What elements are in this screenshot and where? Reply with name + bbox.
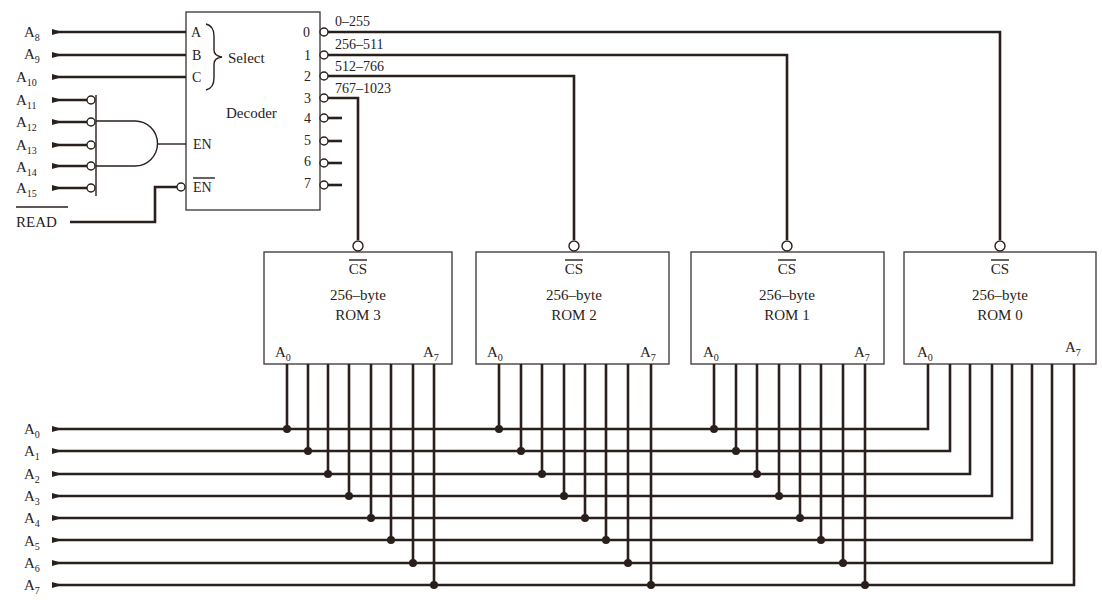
svg-text:A6: A6 — [24, 555, 40, 574]
memory-decoder-diagram: Decoder Select A B C EN EN A8 A9 A10 A11… — [0, 0, 1102, 600]
address-bus-labels: A0 A1 A2 A3 A4 A5 A6 A7 — [24, 421, 40, 596]
gate-input-a15: A15 — [16, 180, 95, 199]
svg-text:256–byte: 256–byte — [330, 287, 386, 303]
svg-text:CS: CS — [991, 261, 1009, 277]
svg-text:A0: A0 — [24, 421, 40, 440]
svg-text:6: 6 — [304, 154, 311, 169]
select-label: Select — [228, 50, 265, 66]
svg-text:7: 7 — [304, 176, 311, 191]
svg-text:A8: A8 — [24, 24, 40, 43]
cs-line-rom0 — [328, 32, 1000, 240]
svg-text:256–byte: 256–byte — [759, 287, 815, 303]
address-bus-wires — [52, 364, 1074, 589]
svg-text:256–byte: 256–byte — [972, 287, 1028, 303]
rom-0: CS 256–byte ROM 0 A0 A7 — [904, 241, 1096, 364]
svg-text:1: 1 — [304, 48, 311, 63]
svg-text:A13: A13 — [16, 137, 37, 156]
range-label-2: 512–766 — [335, 59, 384, 74]
input-a8: A8 — [24, 24, 186, 43]
svg-text:CS: CS — [565, 261, 583, 277]
svg-text:CS: CS — [778, 261, 796, 277]
range-label-3: 767–1023 — [335, 81, 391, 96]
svg-text:0: 0 — [303, 25, 310, 40]
svg-text:A4: A4 — [24, 510, 40, 529]
cs-line-rom3 — [328, 98, 358, 240]
svg-text:ROM 1: ROM 1 — [764, 307, 809, 323]
and-gate — [96, 121, 158, 166]
gate-input-a14: A14 — [16, 159, 95, 178]
svg-text:A2: A2 — [24, 466, 40, 485]
svg-text:A12: A12 — [16, 114, 37, 133]
svg-text:A3: A3 — [24, 488, 40, 507]
decoder-pin-c: C — [192, 70, 201, 85]
decoder-title: Decoder — [226, 105, 277, 121]
svg-text:4: 4 — [304, 111, 311, 126]
input-a10: A10 — [16, 69, 186, 88]
svg-text:ROM 0: ROM 0 — [977, 307, 1022, 323]
svg-text:A15: A15 — [16, 180, 37, 199]
svg-text:A10: A10 — [16, 69, 37, 88]
decoder-pin-en: EN — [193, 137, 212, 152]
svg-text:ROM 2: ROM 2 — [551, 307, 596, 323]
svg-text:A11: A11 — [16, 92, 36, 111]
rom-1: CS 256–byte ROM 1 A0 A7 — [691, 241, 884, 364]
svg-text:A9: A9 — [24, 46, 40, 65]
svg-text:ROM 3: ROM 3 — [335, 307, 380, 323]
svg-text:A7: A7 — [24, 577, 40, 596]
svg-text:5: 5 — [304, 133, 311, 148]
svg-text:A5: A5 — [24, 533, 40, 552]
read-signal: READ — [16, 183, 185, 230]
gate-input-a13: A13 — [16, 137, 95, 156]
range-label-1: 256–511 — [335, 37, 383, 52]
svg-text:2: 2 — [304, 69, 311, 84]
cs-line-rom2 — [328, 76, 574, 240]
svg-text:A14: A14 — [16, 159, 37, 178]
decoder-pin-b: B — [192, 48, 201, 63]
svg-text:3: 3 — [304, 91, 311, 106]
svg-text:256–byte: 256–byte — [546, 287, 602, 303]
decoder-pin-a: A — [191, 25, 202, 40]
svg-text:A1: A1 — [24, 443, 40, 462]
cs-line-rom1 — [328, 55, 787, 240]
svg-text:READ: READ — [16, 214, 57, 230]
input-a9: A9 — [24, 46, 186, 65]
gate-input-a11: A11 — [16, 92, 95, 111]
svg-text:CS: CS — [349, 261, 367, 277]
gate-input-a12: A12 — [16, 114, 95, 133]
decoder-pin-en-bar: EN — [193, 180, 212, 195]
range-label-0: 0–255 — [335, 14, 370, 29]
rom-2: CS 256–byte ROM 2 A0 A7 — [476, 241, 669, 364]
rom-3: CS 256–byte ROM 3 A0 A7 — [264, 241, 452, 364]
